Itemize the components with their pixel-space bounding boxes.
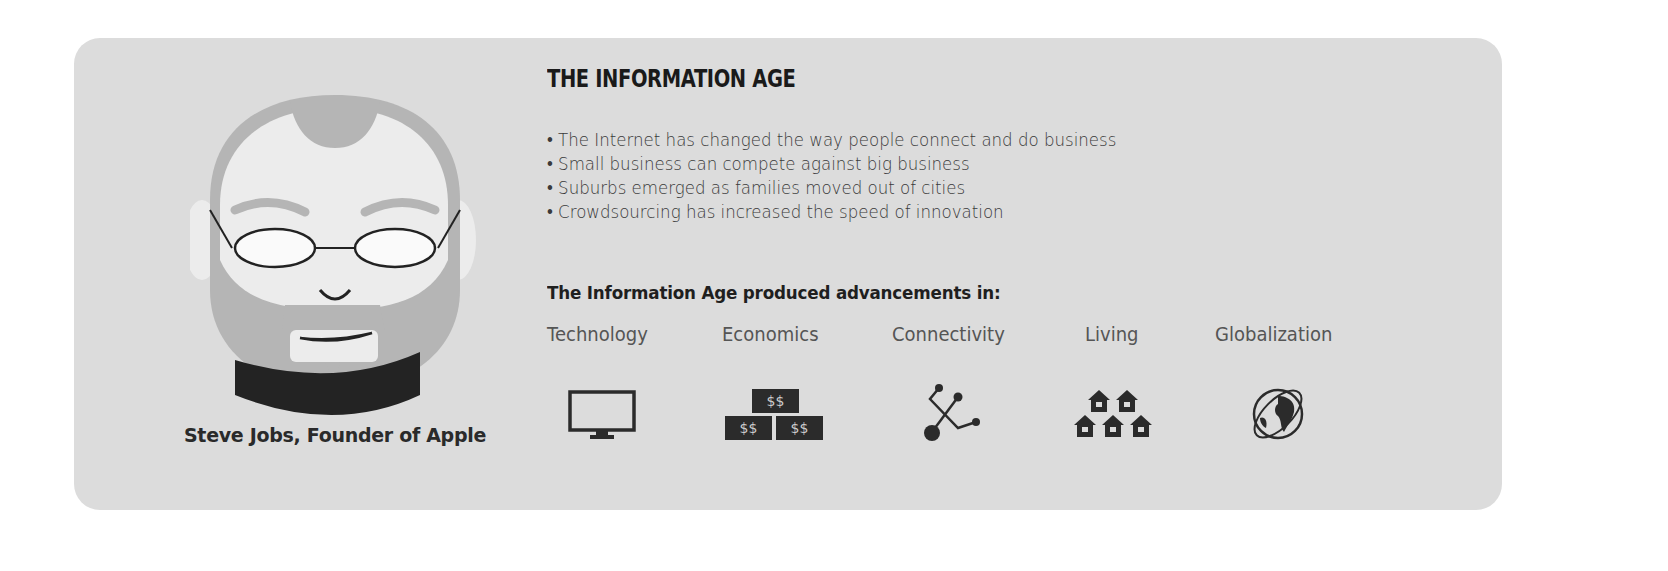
category-economics: Economics [722, 322, 819, 346]
money-bill: $$ [752, 389, 799, 413]
bullet-item: • The Internet has changed the way peopl… [547, 128, 1116, 152]
network-nodes-icon [920, 382, 985, 444]
portrait-caption: Steve Jobs, Founder of Apple [130, 424, 540, 446]
money-bill: $$ [725, 416, 772, 440]
category-connectivity: Connectivity [892, 322, 1005, 346]
globe-icon [1248, 384, 1308, 444]
houses-icon [1074, 388, 1154, 438]
advancements-heading: The Information Age produced advancement… [547, 282, 1000, 303]
bullet-item: • Small business can compete against big… [547, 152, 1116, 176]
page-title: THE INFORMATION AGE [547, 64, 795, 93]
bullet-item: • Crowdsourcing has increased the speed … [547, 200, 1116, 224]
category-living: Living [1085, 322, 1139, 346]
steve-jobs-portrait [190, 90, 480, 420]
category-globalization: Globalization [1215, 322, 1332, 346]
money-bill: $$ [776, 416, 823, 440]
category-technology: Technology [547, 322, 648, 346]
monitor-icon [568, 390, 636, 442]
money-stack-icon: $$ $$ $$ [724, 389, 824, 441]
bullet-item: • Suburbs emerged as families moved out … [547, 176, 1116, 200]
bullet-list: • The Internet has changed the way peopl… [547, 128, 1146, 224]
